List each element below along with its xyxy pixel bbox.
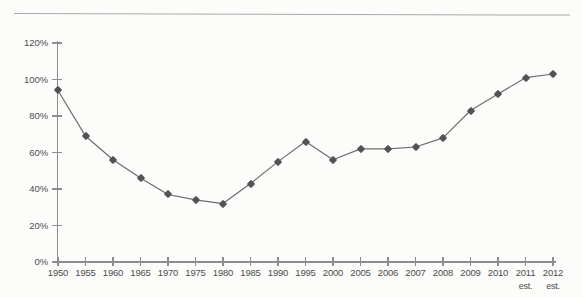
chart-page: 0%20%40%60%80%100%120% 19501955196019651… bbox=[0, 0, 582, 297]
series-line bbox=[0, 0, 582, 297]
line-chart: 0%20%40%60%80%100%120% 19501955196019651… bbox=[0, 0, 582, 297]
